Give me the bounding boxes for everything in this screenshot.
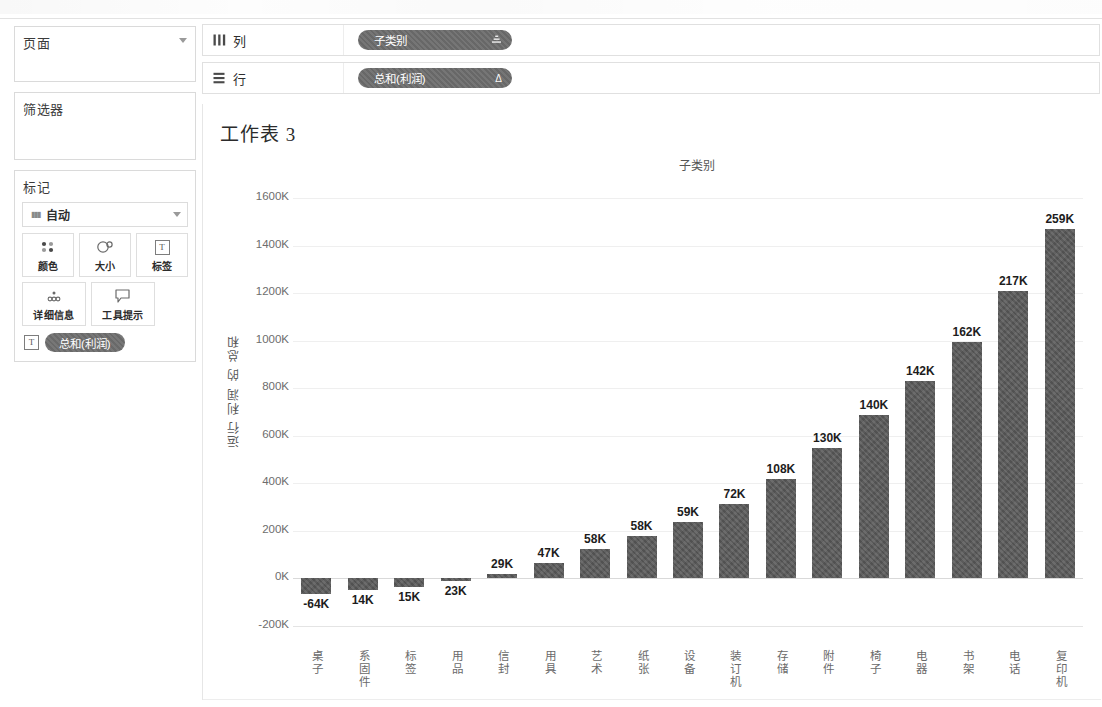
marks-color-label: 颜色	[38, 258, 59, 273]
marks-tooltip-label: 工具提示	[102, 307, 143, 322]
x-axis-tick-label[interactable]: 书架	[960, 650, 976, 676]
bar[interactable]	[441, 578, 471, 581]
chevron-down-icon[interactable]	[173, 212, 181, 217]
label-text-icon: T	[24, 335, 39, 350]
bar[interactable]	[719, 504, 749, 578]
y-axis-tick-label: 400K	[169, 475, 289, 487]
bar[interactable]	[1045, 229, 1075, 578]
x-axis-tick-label[interactable]: 桌子	[309, 650, 325, 676]
gridline	[293, 246, 1083, 247]
x-axis-rule	[293, 626, 1083, 627]
x-axis-tick-label[interactable]: 系固件	[356, 650, 372, 689]
gridline	[293, 198, 1083, 199]
x-axis-tick-label[interactable]: 复印机	[1053, 650, 1069, 689]
marks-button-row-2: 详细信息 工具提示	[22, 282, 188, 326]
bar[interactable]	[905, 381, 935, 579]
panel-bottom-rule	[203, 699, 1101, 700]
bar-value-label: 259K	[1037, 212, 1083, 226]
y-axis-tick-label: 800K	[169, 380, 289, 392]
x-axis-tick-label[interactable]: 电话	[1006, 650, 1022, 676]
y-axis-tick-label: 1400K	[169, 238, 289, 250]
y-axis-tick-label: 1200K	[169, 285, 289, 297]
rows-pill-label: 总和(利润)	[374, 70, 426, 86]
x-axis-tick-label[interactable]: 存储	[774, 650, 790, 676]
x-axis-tick-label[interactable]: 标签	[402, 650, 418, 676]
mark-type-selector[interactable]: ▮▮▮ 自动	[22, 202, 188, 227]
rows-shelf[interactable]: 行 总和(利润) Δ	[202, 62, 1100, 94]
marks-applied-field-row: T 总和(利润)	[24, 333, 188, 352]
columns-pill-subcategory[interactable]: 子类别	[358, 30, 512, 50]
x-axis-tick-label[interactable]: 用具	[542, 650, 558, 676]
x-axis-tick-label[interactable]: 用品	[449, 650, 465, 676]
x-axis-tick-label[interactable]: 附件	[820, 650, 836, 676]
marks-size-label: 大小	[95, 258, 116, 273]
marks-applied-pill[interactable]: 总和(利润)	[45, 333, 125, 352]
y-axis-tick-label: 1600K	[169, 190, 289, 202]
marks-tooltip-button[interactable]: 工具提示	[91, 282, 155, 326]
top-divider	[0, 18, 1102, 19]
bar-value-label: 217K	[990, 274, 1036, 288]
bar[interactable]	[580, 549, 610, 578]
y-axis-tick-label: -200K	[169, 618, 289, 630]
bar-value-label: 29K	[479, 557, 525, 571]
sort-icon[interactable]	[491, 34, 502, 46]
bar-value-label: 59K	[665, 505, 711, 519]
bar[interactable]	[859, 415, 889, 579]
bar[interactable]	[627, 536, 657, 579]
columns-icon	[211, 34, 227, 46]
bar[interactable]	[348, 578, 378, 590]
worksheet-panel: 工作表 3 子类别 运行 利润 的 总和 1600K1400K1200K1000…	[202, 104, 1101, 700]
x-axis-tick-label[interactable]: 装订机	[727, 650, 743, 689]
x-axis-tick-label[interactable]: 椅子	[867, 650, 883, 676]
x-axis-tick-label[interactable]: 艺术	[588, 650, 604, 676]
bar[interactable]	[998, 291, 1028, 579]
marks-button-row-1: 颜色 大小 T 标签	[22, 233, 188, 277]
rows-pill-sum-profit[interactable]: 总和(利润) Δ	[358, 68, 512, 88]
bar-value-label: 58K	[572, 532, 618, 546]
bar-value-label: 72K	[711, 487, 757, 501]
x-axis-tick-label[interactable]: 信封	[495, 650, 511, 676]
table-calc-delta-icon[interactable]: Δ	[495, 73, 502, 84]
y-axis-tick-label: 600K	[169, 428, 289, 440]
shelf-area: 列 子类别 行 总和(利润) Δ	[202, 24, 1100, 100]
size-circle-icon	[96, 237, 114, 257]
detail-dots-icon	[45, 286, 63, 306]
x-axis-tick-label[interactable]: 纸张	[635, 650, 651, 676]
bar[interactable]	[952, 342, 982, 578]
bar-value-label: 162K	[944, 325, 990, 339]
rows-shelf-label: 行	[233, 69, 343, 88]
bar-value-label: 47K	[525, 546, 571, 560]
y-axis-tick-label: 200K	[169, 523, 289, 535]
columns-shelf-label: 列	[233, 31, 343, 50]
marks-detail-button[interactable]: 详细信息	[22, 282, 86, 326]
scan-artifact-strip	[0, 0, 1102, 14]
pages-title: 页面	[15, 27, 195, 56]
bar[interactable]	[301, 578, 331, 593]
mark-type-label: 自动	[46, 206, 70, 223]
bar-mark-icon: ▮▮▮	[31, 210, 40, 219]
bar[interactable]	[812, 448, 842, 579]
marks-label-label: 标签	[152, 258, 173, 273]
bar[interactable]	[394, 578, 424, 586]
columns-shelf[interactable]: 列 子类别	[202, 24, 1100, 56]
filters-card[interactable]: 筛选器	[14, 92, 196, 160]
marks-color-button[interactable]: 颜色	[22, 233, 74, 277]
filters-title: 筛选器	[15, 93, 195, 122]
x-axis-tick-label[interactable]: 设备	[681, 650, 697, 676]
marks-title: 标记	[15, 171, 195, 200]
marks-detail-label: 详细信息	[33, 307, 74, 322]
pages-card[interactable]: 页面	[14, 26, 196, 82]
bar[interactable]	[534, 563, 564, 578]
bar-value-label: 130K	[804, 431, 850, 445]
shelf-divider	[343, 25, 344, 55]
x-axis-tick-label[interactable]: 电器	[913, 650, 929, 676]
plot-area[interactable]: 1600K1400K1200K1000K800K600K400K200K0K-2…	[293, 198, 1083, 626]
bar[interactable]	[766, 479, 796, 579]
marks-size-button[interactable]: 大小	[79, 233, 131, 277]
bar[interactable]	[487, 574, 517, 578]
chevron-down-icon[interactable]	[179, 38, 187, 43]
bar[interactable]	[673, 522, 703, 579]
bar-value-label: 23K	[432, 584, 478, 598]
y-axis-tick-label: 1000K	[169, 333, 289, 345]
bar-value-label: -64K	[293, 597, 339, 611]
